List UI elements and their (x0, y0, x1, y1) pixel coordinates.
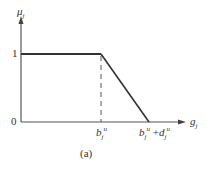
figure-caption: (a) (80, 148, 92, 159)
y-tick-1: 1 (12, 48, 18, 59)
x-axis-arrow-icon (178, 120, 186, 125)
origin-label: 0 (11, 116, 17, 127)
x-axis-label: gj (190, 116, 197, 127)
x-tick-b-plus-d: bju +dju (139, 127, 170, 138)
x-tick-b: bju (96, 127, 107, 138)
y-axis-label: μj (17, 6, 24, 17)
descending-line (101, 54, 149, 122)
membership-chart (0, 0, 210, 169)
